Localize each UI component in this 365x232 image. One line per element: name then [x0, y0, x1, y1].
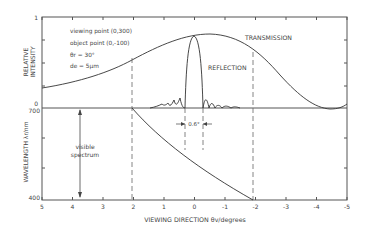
y-label-top-line2: INTENSITY: [29, 46, 36, 77]
reflection-curve: [150, 36, 240, 108]
chart-figure: 1 0 700 400 RELATIVE INTENSITY WAVELENGT…: [0, 0, 365, 232]
label-visible: visible: [75, 143, 94, 150]
label-spectrum: spectrum: [71, 151, 100, 159]
x-tick-label: -1: [222, 203, 228, 210]
label-peak-width: 0.6°: [188, 121, 200, 127]
x-tick-label: 2: [132, 203, 136, 210]
y-tick-700: 700: [29, 107, 41, 114]
y-tick-400: 400: [29, 194, 41, 201]
y-label-bottom: WAVELENGTH λr/nm: [22, 121, 29, 182]
x-tick-label: -3: [283, 203, 289, 210]
x-tick-label: -2: [253, 203, 259, 210]
chart-svg: 1 0 700 400 RELATIVE INTENSITY WAVELENGT…: [0, 0, 365, 232]
y-label-top-line1: RELATIVE: [22, 48, 29, 77]
annotation-object-point: object point (0,-100): [70, 40, 130, 47]
x-tick-label: 5: [40, 203, 44, 210]
x-axis-title: VIEWING DIRECTION θv/degrees: [144, 216, 246, 224]
label-reflection: REFLECTION: [208, 64, 247, 71]
x-tick-label: 0: [193, 203, 197, 210]
annotation-theta-r: θr = 30°: [70, 52, 95, 58]
x-tick-label: -5: [344, 203, 350, 210]
y-tick-1: 1: [34, 14, 38, 21]
x-tick-label: -4: [314, 203, 320, 210]
x-tick-label: 4: [71, 203, 75, 210]
x-tick-label: 1: [162, 203, 166, 210]
annotation-viewing-point: viewing point (0,300): [70, 28, 132, 35]
annotation-de: de = 5μm: [70, 63, 99, 70]
x-axis-tick-labels: 543210-1-2-3-4-5: [40, 203, 350, 210]
y-tick-0: 0: [34, 100, 38, 107]
x-tick-label: 3: [101, 203, 105, 210]
label-transmission: TRANSMISSION: [244, 34, 292, 41]
